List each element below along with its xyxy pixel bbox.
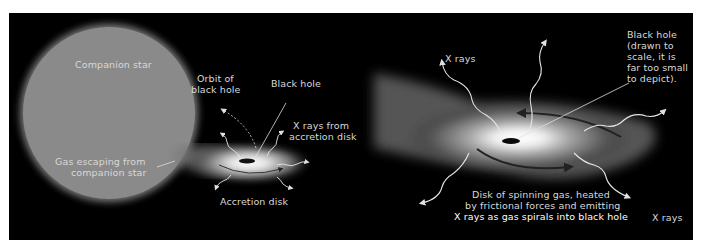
label-accretion-disk: Accretion disk [220, 196, 288, 207]
label-black-hole-note-5: to depict). [627, 73, 677, 84]
label-xrays-bottom-right: X rays [652, 212, 682, 223]
label-disk-line3: X rays as gas spirals into black hole [454, 211, 628, 222]
orbit-arrow [223, 110, 256, 148]
label-orbit-line1: Orbit of [197, 73, 234, 84]
label-gas-line2: companion star [71, 167, 146, 178]
label-xrays-line1: X rays from [293, 120, 349, 131]
label-gas-line1: Gas escaping from [55, 156, 146, 167]
label-companion-star: Companion star [75, 59, 152, 70]
label-black-hole-note-3: scale, it is [627, 51, 676, 62]
label-xrays-line2: accretion disk [289, 131, 357, 142]
label-black-hole-note-2: (drawn to [627, 40, 674, 51]
label-xrays-top-left: X rays [445, 53, 475, 64]
label-black-hole-note-1: Black hole [627, 29, 677, 40]
label-black-hole: Black hole [271, 78, 321, 89]
accretion-disk-small [187, 143, 311, 183]
label-orbit-line2: black hole [191, 84, 241, 95]
figure-frame: Companion star Orbit of black hole Black… [9, 13, 693, 240]
label-disk-line2: by frictional forces and emitting [465, 200, 620, 211]
label-black-hole-note-4: far too small [627, 62, 688, 73]
label-disk-line1: Disk of spinning gas, heated [472, 189, 610, 200]
